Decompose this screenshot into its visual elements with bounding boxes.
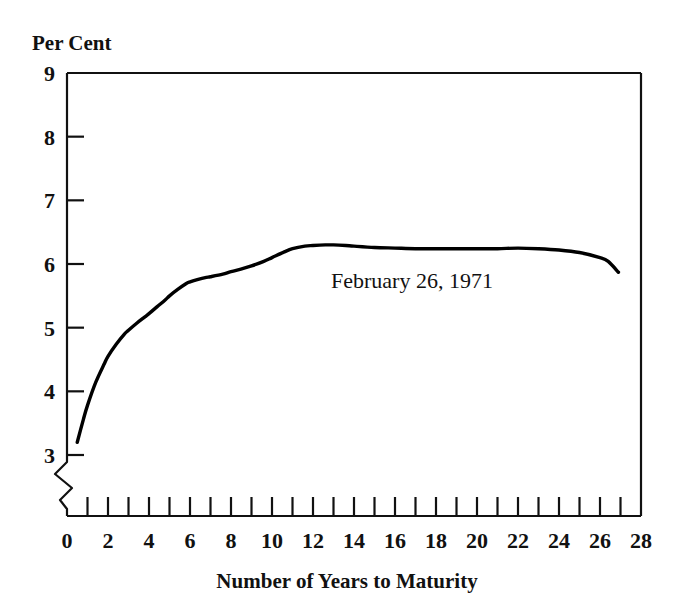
x-tick-label: 20 xyxy=(466,528,488,553)
x-tick-label: 16 xyxy=(384,528,406,553)
x-tick-label: 14 xyxy=(343,528,365,553)
x-tick-label: 26 xyxy=(589,528,611,553)
x-axis-title: Number of Years to Maturity xyxy=(216,569,478,593)
x-tick-label: 24 xyxy=(548,528,570,553)
yield-curve-chart: Per Cent 3456789 02468101214161820222426… xyxy=(0,0,680,612)
chart-background xyxy=(0,0,680,612)
chart-canvas: Per Cent 3456789 02468101214161820222426… xyxy=(0,0,680,612)
y-tick-label: 4 xyxy=(44,379,55,404)
y-tick-label: 8 xyxy=(44,125,55,150)
y-tick-label: 9 xyxy=(44,61,55,86)
series-annotation-label: February 26, 1971 xyxy=(331,268,493,293)
y-tick-label: 3 xyxy=(44,443,55,468)
x-tick-label: 8 xyxy=(226,528,237,553)
x-tick-label: 2 xyxy=(103,528,114,553)
y-axis-title: Per Cent xyxy=(32,31,112,55)
x-tick-label: 4 xyxy=(144,528,155,553)
y-tick-label: 6 xyxy=(44,252,55,277)
y-tick-label: 7 xyxy=(44,188,55,213)
x-tick-label: 22 xyxy=(507,528,529,553)
x-tick-label: 10 xyxy=(261,528,283,553)
x-tick-label: 12 xyxy=(302,528,324,553)
y-tick-label: 5 xyxy=(44,316,55,341)
x-tick-label: 28 xyxy=(630,528,652,553)
x-tick-label: 0 xyxy=(62,528,73,553)
x-tick-label: 6 xyxy=(185,528,196,553)
x-tick-label: 18 xyxy=(425,528,447,553)
